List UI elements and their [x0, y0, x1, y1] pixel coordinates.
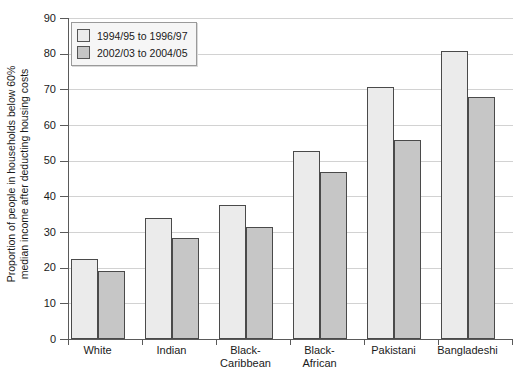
legend: 1994/95 to 1996/97 2002/03 to 2004/05 — [71, 22, 197, 66]
x-axis-tick-label: Black-Caribbean — [209, 344, 283, 370]
bar — [246, 227, 273, 339]
y-axis-tick-label: 90 — [6, 13, 56, 24]
y-axis-tick-label: 30 — [6, 227, 56, 238]
y-axis-tick-label: 70 — [6, 84, 56, 95]
y-axis-tick-label: 0 — [6, 334, 56, 345]
x-axis-tick-label: Bangladeshi — [431, 344, 505, 357]
bar-series-layer — [68, 18, 512, 339]
x-axis-tick-label-line: Bangladeshi — [431, 344, 505, 357]
bar — [320, 172, 347, 339]
bar — [394, 140, 421, 339]
x-axis-tick — [290, 340, 291, 345]
x-axis-tick — [512, 340, 513, 345]
x-axis-tick — [216, 340, 217, 345]
x-axis-tick-label-line: Pakistani — [357, 344, 431, 357]
y-axis-tick — [60, 303, 68, 304]
medium-gray-swatch-icon — [77, 46, 90, 59]
y-axis-tick — [60, 161, 68, 162]
y-axis-tick — [60, 339, 68, 340]
legend-item[interactable]: 2002/03 to 2004/05 — [77, 44, 188, 61]
bar — [71, 259, 98, 339]
bar — [219, 205, 246, 339]
bar-chart: Proportion of people in households below… — [0, 0, 525, 380]
y-axis-title-line-2: median income after deducting housing co… — [18, 66, 31, 283]
y-axis-tick — [60, 125, 68, 126]
x-axis-tick-label-line: White — [61, 344, 135, 357]
y-axis-tick — [60, 196, 68, 197]
y-axis-tick — [60, 54, 68, 55]
x-axis-labels: WhiteIndianBlack-CaribbeanBlack-AfricanP… — [68, 344, 512, 380]
x-axis-tick — [68, 340, 69, 345]
y-axis-tick — [60, 89, 68, 90]
y-axis-tick-label: 10 — [6, 298, 56, 309]
x-axis-tick — [364, 340, 365, 345]
y-axis-tick-label: 40 — [6, 191, 56, 202]
y-axis-tick — [60, 232, 68, 233]
x-axis-tick-label: Black-African — [283, 344, 357, 370]
y-axis-title-line-1: Proportion of people in households below… — [5, 66, 18, 283]
y-axis-tick-label: 60 — [6, 120, 56, 131]
legend-item-label: 1994/95 to 1996/97 — [97, 30, 188, 42]
bar — [367, 87, 394, 340]
bar — [145, 218, 172, 339]
x-axis-tick-label-line: Black- — [283, 344, 357, 357]
x-axis-tick-label-line: African — [283, 357, 357, 370]
x-axis-tick-label-line: Caribbean — [209, 357, 283, 370]
x-axis-tick-label: Pakistani — [357, 344, 431, 357]
bar — [441, 51, 468, 339]
x-axis-tick-label: White — [61, 344, 135, 357]
y-axis-tick-label: 20 — [6, 262, 56, 273]
bar — [98, 271, 125, 340]
legend-item-label: 2002/03 to 2004/05 — [97, 47, 188, 59]
x-axis-tick — [438, 340, 439, 345]
bar — [468, 97, 495, 340]
y-axis-tick — [60, 268, 68, 269]
bar — [293, 151, 320, 339]
y-axis-tick — [60, 18, 68, 19]
bar — [172, 238, 199, 339]
x-axis-tick — [142, 340, 143, 345]
x-axis-tick-label-line: Black- — [209, 344, 283, 357]
y-axis-tick-label: 80 — [6, 48, 56, 59]
x-axis-tick-label: Indian — [135, 344, 209, 357]
y-axis-tick-label: 50 — [6, 155, 56, 166]
x-axis-tick-label-line: Indian — [135, 344, 209, 357]
legend-item[interactable]: 1994/95 to 1996/97 — [77, 27, 188, 44]
light-gray-swatch-icon — [77, 29, 90, 42]
